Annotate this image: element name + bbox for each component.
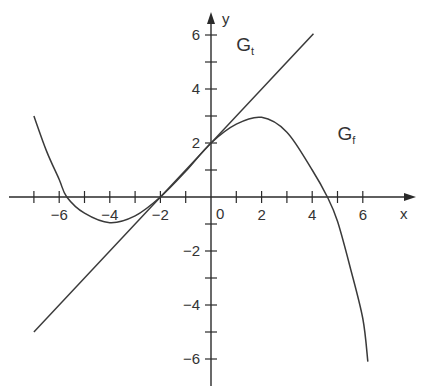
x-tick-label: 2 — [257, 206, 265, 223]
y-tick-label: −6 — [183, 350, 200, 367]
y-tick-label: −4 — [183, 296, 200, 313]
y-tick-label: 2 — [192, 134, 200, 151]
x-axis-label: x — [400, 205, 408, 222]
y-axis-arrow-icon — [207, 12, 215, 24]
x-tick-label: 4 — [308, 206, 316, 223]
x-tick-label: −4 — [101, 206, 118, 223]
y-tick-label: −2 — [183, 242, 200, 259]
x-tick-label: −6 — [51, 206, 68, 223]
label-g-t: Gt — [236, 34, 254, 57]
x-axis-arrow-icon — [404, 193, 416, 201]
y-tick-label: 6 — [192, 26, 200, 43]
function-graph-chart: −6−4−2246 642−2−4−6 x y 0 GfGt — [0, 0, 424, 388]
x-tick-label: −2 — [152, 206, 169, 223]
origin-label: 0 — [216, 205, 224, 222]
y-tick-label: 4 — [192, 80, 200, 97]
label-g-f: Gf — [338, 123, 357, 146]
curve-g-t — [34, 34, 314, 332]
x-tick-label: 6 — [359, 206, 367, 223]
y-axis-label: y — [222, 10, 230, 27]
axes: −6−4−2246 642−2−4−6 x y 0 — [9, 10, 416, 386]
